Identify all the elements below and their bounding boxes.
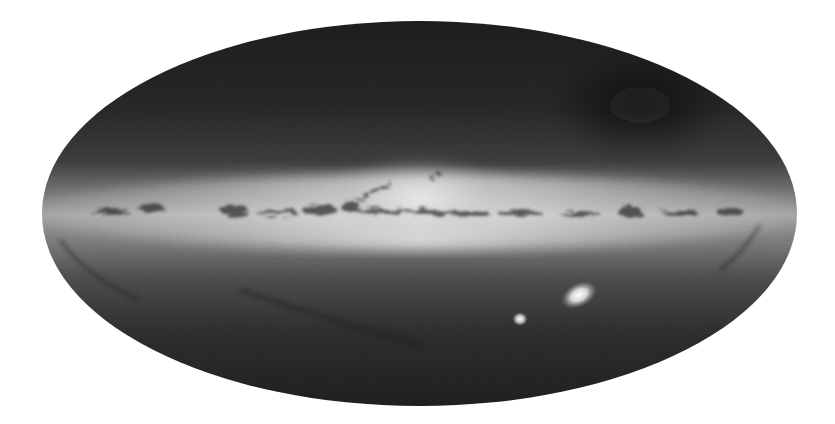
star-grain — [40, 20, 800, 410]
milky-way-all-sky-map — [0, 0, 835, 424]
sky-map-canvas — [0, 0, 835, 424]
sky-ellipse — [30, 20, 810, 410]
